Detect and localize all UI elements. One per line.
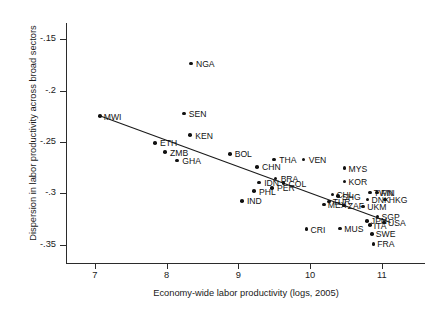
data-point-label-swe: SWE (376, 230, 396, 239)
data-point-mex[interactable] (322, 203, 326, 207)
data-point-label-per: PER (277, 184, 295, 193)
data-point-label-phl: PHL (259, 188, 276, 197)
data-point-label-sen: SEN (189, 110, 207, 119)
data-point-hkg[interactable] (383, 198, 387, 202)
data-point-chn[interactable] (255, 165, 259, 169)
data-point-label-usa: USA (388, 219, 406, 228)
data-point-ita[interactable] (368, 223, 372, 227)
trend-line (0, 0, 446, 312)
scatter-plot-figure: Dispersion in labor productivity across … (0, 0, 446, 312)
data-point-label-mus: MUS (344, 225, 363, 234)
data-point-bol[interactable] (228, 152, 232, 156)
data-point-mwi[interactable] (98, 114, 102, 118)
data-point-label-eth: ETH (160, 139, 177, 148)
data-point-label-cri: CRI (311, 226, 326, 235)
data-point-label-bol: BOL (235, 150, 252, 159)
data-point-label-hkg: HKG (389, 196, 408, 205)
data-point-nga[interactable] (189, 62, 193, 66)
data-point-label-mys: MYS (349, 165, 368, 174)
data-point-label-mwi: MWI (104, 113, 122, 122)
data-point-label-gha: GHA (182, 157, 201, 166)
data-point-ind[interactable] (240, 199, 244, 203)
data-point-label-kor: KOR (349, 178, 368, 187)
data-point-fin[interactable] (375, 191, 379, 195)
data-point-ken[interactable] (188, 133, 192, 137)
data-point-label-ken: KEN (195, 132, 213, 141)
data-point-zmb[interactable] (163, 150, 167, 154)
data-point-label-tha: THA (279, 156, 296, 165)
data-point-eth[interactable] (153, 141, 157, 145)
data-point-fra[interactable] (372, 242, 376, 246)
data-point-label-nga: NGA (196, 60, 215, 69)
data-point-zaf[interactable] (342, 204, 346, 208)
data-point-label-ven: VEN (309, 156, 327, 165)
data-point-sen[interactable] (182, 112, 186, 116)
data-point-label-chn: CHN (262, 163, 281, 172)
data-point-twn[interactable] (368, 191, 372, 195)
data-point-phl[interactable] (252, 189, 256, 193)
data-point-label-fra: FRA (377, 240, 394, 249)
plot-area: MWINGASENETHKENZMBGHABOLCHNTHAVENBRACOLI… (0, 0, 446, 312)
data-point-label-ind: IND (247, 197, 262, 206)
data-point-swe[interactable] (370, 232, 374, 236)
data-point-jpn[interactable] (365, 219, 369, 223)
data-point-label-ukm: UKM (367, 203, 386, 212)
